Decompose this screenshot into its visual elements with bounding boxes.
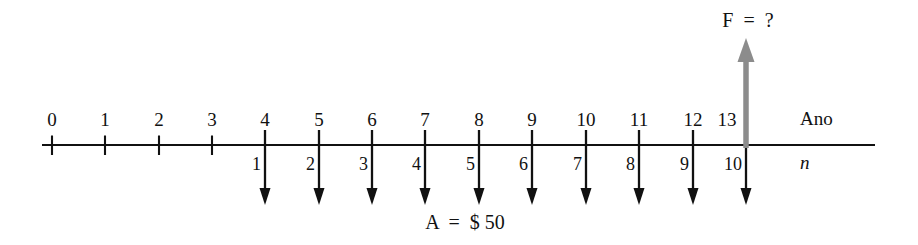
cash-flow-diagram: 012345678910111213 12345678910 Ano n A =… xyxy=(0,0,918,245)
period-label: 5 xyxy=(466,155,475,173)
period-label: 7 xyxy=(573,155,582,173)
payment-arrow xyxy=(634,130,645,205)
payment-arrow-head xyxy=(688,188,699,205)
year-label: 8 xyxy=(474,110,484,129)
period-label: 8 xyxy=(626,155,635,173)
year-label: 10 xyxy=(577,110,596,129)
year-label: 0 xyxy=(47,110,57,129)
payment-arrow-head xyxy=(581,188,592,205)
payment-arrow xyxy=(527,130,538,205)
year-label: 1 xyxy=(100,110,110,129)
year-label: 9 xyxy=(527,110,537,129)
future-value-label: F = ? xyxy=(722,10,773,30)
payment-arrow xyxy=(314,130,325,205)
payment-arrow xyxy=(420,130,431,205)
year-label: 2 xyxy=(154,110,164,129)
payment-arrow-head xyxy=(314,188,325,205)
payment-arrow xyxy=(688,130,699,205)
future-value-arrow xyxy=(738,38,755,148)
payment-arrow xyxy=(474,130,485,205)
period-label: 10 xyxy=(724,155,742,173)
year-label: 5 xyxy=(314,110,324,129)
future-arrow-head xyxy=(738,38,755,62)
period-label: 2 xyxy=(306,155,315,173)
year-label: 7 xyxy=(420,110,430,129)
payment-arrow-head xyxy=(367,188,378,205)
year-label: 6 xyxy=(367,110,377,129)
payment-arrow xyxy=(260,130,271,205)
payment-arrows xyxy=(260,130,752,205)
payment-arrow-head xyxy=(527,188,538,205)
payment-arrow-head xyxy=(260,188,271,205)
period-label: 3 xyxy=(359,155,368,173)
payment-arrow xyxy=(367,130,378,205)
annuity-amount-label: A = $ 50 xyxy=(425,212,505,232)
period-label: 1 xyxy=(252,155,261,173)
year-label: 13 xyxy=(718,110,737,129)
cash-flow-diagram-canvas xyxy=(0,0,918,245)
axis-caption-period: n xyxy=(800,153,810,172)
period-label: 6 xyxy=(519,155,528,173)
period-label: 4 xyxy=(412,155,421,173)
axis-caption-year: Ano xyxy=(800,109,833,128)
period-label: 9 xyxy=(680,155,689,173)
payment-arrow-head xyxy=(474,188,485,205)
payment-arrow-head xyxy=(420,188,431,205)
payment-arrow xyxy=(581,130,592,205)
payment-arrow-head xyxy=(634,188,645,205)
year-label: 3 xyxy=(207,110,217,129)
year-label: 12 xyxy=(684,110,703,129)
payment-arrow-head xyxy=(741,188,752,205)
year-label: 4 xyxy=(260,110,270,129)
year-label: 11 xyxy=(630,110,648,129)
